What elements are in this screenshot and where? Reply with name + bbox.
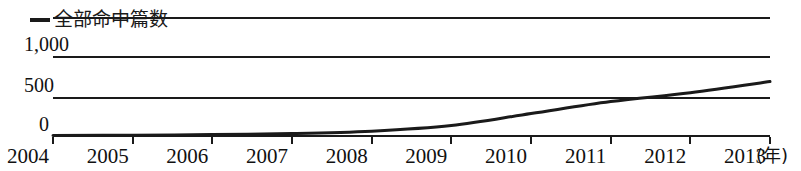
- gridline-1000: [53, 56, 770, 58]
- x-axis-tick: [371, 137, 373, 144]
- x-axis-line: [53, 135, 770, 137]
- x-axis-tick: [530, 137, 532, 144]
- x-axis-tick: [769, 137, 771, 144]
- x-axis-tick-label: 2008: [326, 144, 368, 168]
- x-axis-tick: [291, 137, 293, 144]
- x-axis-tick: [610, 137, 612, 144]
- x-axis-tick-label: 2005: [87, 144, 129, 168]
- y-axis-tick-label-0: 0: [39, 114, 49, 134]
- x-axis-tick-label: 2006: [166, 144, 208, 168]
- x-axis-tick: [450, 137, 452, 144]
- x-axis-tick: [211, 137, 213, 144]
- x-axis-tick: [52, 137, 54, 144]
- x-axis-tick: [132, 137, 134, 144]
- line-marker-icon: [30, 18, 50, 22]
- x-axis-tick-label: 2012: [644, 144, 686, 168]
- y-axis-tick-label-1000: 1,000: [24, 34, 69, 54]
- x-axis-tick-label: 2009: [405, 144, 447, 168]
- legend: 全部命中篇数: [30, 10, 168, 29]
- x-axis-unit-label: (年): [756, 144, 788, 168]
- line-chart: 1,000 500 0 2004200520062007200820092010…: [0, 0, 801, 171]
- x-axis-tick-label: 2007: [246, 144, 288, 168]
- x-axis-tick-label: 2010: [485, 144, 527, 168]
- gridline-500: [53, 97, 770, 99]
- legend-label: 全部命中篇数: [54, 10, 168, 29]
- x-axis-tick-label: 2011: [565, 144, 606, 168]
- y-axis-tick-label-500: 500: [24, 75, 54, 95]
- x-axis-tick-label: 2004: [7, 144, 49, 168]
- x-axis-tick: [689, 137, 691, 144]
